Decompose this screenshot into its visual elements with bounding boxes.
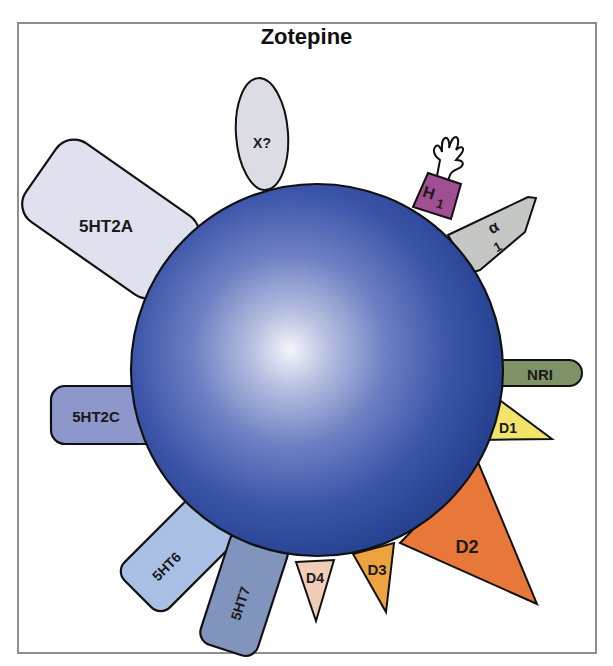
receptor-d3: D3 — [353, 543, 394, 612]
receptor-d4: D4 — [296, 560, 334, 621]
zotepine-sphere — [131, 184, 503, 556]
receptor-binding-diagram: 5HT2A X? H 1 α 1 5HT2C 5HT6 — [0, 0, 613, 666]
label-d1: D1 — [499, 420, 517, 436]
receptor-h1: H 1 — [413, 137, 463, 219]
label-5ht2c: 5HT2C — [72, 408, 120, 425]
label-nri: NRI — [527, 366, 553, 383]
label-d2: D2 — [455, 537, 478, 557]
label-d3: D3 — [367, 561, 386, 578]
receptor-x-unknown: X? — [232, 76, 292, 191]
label-x: X? — [253, 135, 271, 151]
label-d4: D4 — [306, 570, 324, 586]
label-5ht2a: 5HT2A — [79, 217, 133, 236]
